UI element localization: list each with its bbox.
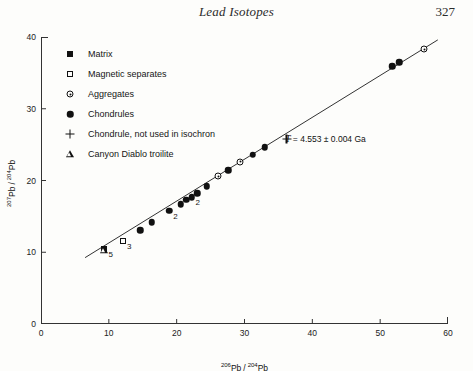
legend-label: Aggregates	[88, 89, 134, 99]
x-axis-denominator: 204Pb	[248, 363, 268, 371]
legend-marker-open-square	[62, 66, 78, 82]
annotation-value: = 4.553 ± 0.004 Ga	[290, 134, 365, 144]
legend-item-filled-square: Matrix	[62, 44, 282, 64]
legend-marker-filled-square	[62, 46, 78, 62]
isochron-figure: 0102030405060010203040 5322 T = 4.553 ± …	[0, 28, 473, 371]
filled-circle-marker	[137, 227, 144, 234]
triangle-icon	[66, 150, 74, 157]
data-point-count-label: 5	[108, 250, 112, 259]
filled-square-icon	[67, 51, 73, 57]
y-tick-label: 20	[19, 176, 36, 186]
x-axis-numerator: 206Pb	[221, 363, 241, 371]
y-axis-title: 207Pb/204Pb	[6, 128, 17, 238]
data-point-count-label: 2	[196, 198, 200, 207]
x-tick-label: 60	[443, 328, 452, 338]
page-title: Lead Isotopes	[0, 4, 473, 20]
plus-icon	[66, 130, 75, 139]
legend-marker-triangle	[62, 146, 78, 162]
x-tick-label: 20	[172, 328, 181, 338]
filled-circle-icon	[67, 111, 74, 118]
x-tick-label: 50	[375, 328, 384, 338]
legend-item-plus: Chondrule, not used in isochron	[62, 124, 282, 144]
filled-circle-marker	[148, 219, 155, 226]
filled-circle-marker	[389, 63, 396, 70]
triangle-marker	[100, 246, 108, 253]
y-axis-separator: /	[6, 180, 16, 186]
y-tick-label: 0	[19, 319, 36, 329]
legend-label: Chondrule, not used in isochron	[88, 129, 215, 139]
filled-circle-marker	[225, 167, 232, 174]
x-tick-label: 0	[39, 328, 44, 338]
x-tick-label: 30	[240, 328, 249, 338]
legend-item-filled-circle: Chondrules	[62, 104, 282, 124]
x-axis-title: 206Pb/204Pb	[41, 362, 448, 371]
open-square-marker	[120, 238, 126, 244]
legend-label: Canyon Diablo troilite	[88, 149, 174, 159]
x-tick-label: 40	[308, 328, 317, 338]
legend-marker-plus	[62, 126, 78, 142]
legend-label: Matrix	[88, 49, 113, 59]
filled-circle-marker	[396, 59, 403, 66]
circle-dot-marker	[215, 173, 222, 180]
circle-dot-icon	[67, 91, 74, 98]
legend-label: Magnetic separates	[88, 69, 167, 79]
y-tick-label: 10	[19, 247, 36, 257]
y-axis-numerator: 207Pb	[6, 187, 16, 207]
legend-item-circle-dot: Aggregates	[62, 84, 282, 104]
filled-circle-marker	[203, 183, 210, 190]
page-number: 327	[436, 4, 456, 20]
y-tick-label: 40	[19, 32, 36, 42]
legend-marker-filled-circle	[62, 106, 78, 122]
filled-circle-marker	[194, 190, 201, 197]
page-header: Lead Isotopes 327	[0, 0, 473, 30]
legend-marker-circle-dot	[62, 86, 78, 102]
legend-item-open-square: Magnetic separates	[62, 64, 282, 84]
y-tick-label: 30	[19, 104, 36, 114]
legend-label: Chondrules	[88, 109, 134, 119]
circle-dot-marker	[421, 46, 428, 53]
data-point-count-label: 2	[173, 212, 177, 221]
filled-circle-marker	[166, 207, 173, 214]
x-tick-label: 10	[104, 328, 113, 338]
legend: MatrixMagnetic separatesAggregatesChondr…	[62, 44, 282, 164]
isochron-age-annotation: T = 4.553 ± 0.004 Ga	[285, 134, 366, 144]
data-point-count-label: 3	[127, 242, 131, 251]
legend-item-triangle: Canyon Diablo troilite	[62, 144, 282, 164]
y-axis-denominator: 204Pb	[6, 160, 16, 180]
open-square-icon	[67, 71, 73, 77]
